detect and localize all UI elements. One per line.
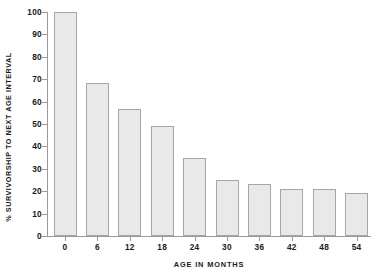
y-tick-label: 10 <box>18 209 42 217</box>
x-tick-mark <box>130 237 131 241</box>
y-tick-label: 80 <box>18 53 42 61</box>
bar <box>151 126 174 236</box>
y-tick-label: 90 <box>18 30 42 38</box>
x-tick-mark <box>65 237 66 241</box>
plot-area <box>47 12 371 236</box>
y-tick-label: 60 <box>18 97 42 105</box>
bar <box>118 109 141 236</box>
y-tick-label: 0 <box>18 232 42 240</box>
x-tick-mark <box>162 237 163 241</box>
x-tick-mark <box>259 237 260 241</box>
y-tick-label: 50 <box>18 120 42 128</box>
bar <box>86 83 109 236</box>
y-tick-label: 20 <box>18 187 42 195</box>
bar <box>183 158 206 236</box>
bar <box>345 193 368 236</box>
bar <box>216 180 239 236</box>
x-tick-mark <box>324 237 325 241</box>
y-tick-label: 100 <box>18 8 42 16</box>
x-axis-tick-labels: 061218243036424854 <box>0 243 385 257</box>
x-tick-mark <box>227 237 228 241</box>
x-axis-title: AGE IN MONTHS <box>47 260 371 269</box>
y-axis-title: % SURVIVORSHIP TO NEXT AGE INTERVAL <box>2 24 16 250</box>
x-axis-line <box>47 236 371 237</box>
x-tick-mark <box>357 237 358 241</box>
bar <box>54 12 77 236</box>
bar <box>313 189 336 236</box>
y-tick-label: 30 <box>18 165 42 173</box>
bar <box>248 184 271 236</box>
bar <box>280 189 303 236</box>
y-tick-label: 40 <box>18 142 42 150</box>
x-tick-mark <box>195 237 196 241</box>
x-tick-mark <box>292 237 293 241</box>
x-tick-mark <box>97 237 98 241</box>
y-tick-mark <box>42 236 47 237</box>
x-tick-label: 54 <box>337 243 377 251</box>
y-tick-label: 70 <box>18 75 42 83</box>
bar-chart: % SURVIVORSHIP TO NEXT AGE INTERVAL 0102… <box>0 0 385 274</box>
y-axis-tick-labels: 0102030405060708090100 <box>18 0 42 274</box>
